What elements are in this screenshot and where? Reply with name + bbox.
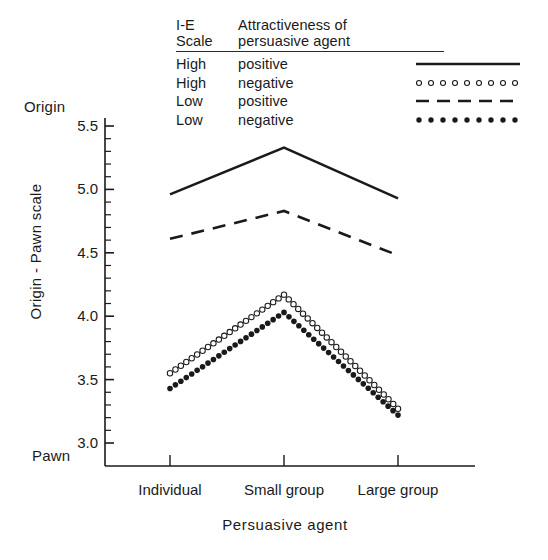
x-axis-ticks: [170, 455, 398, 466]
plot-area: [0, 0, 548, 560]
series-dashed: [170, 211, 398, 255]
figure-root: I-E Attractiveness of Scale persuasive a…: [0, 0, 548, 560]
data-series-layer: [167, 148, 401, 418]
series-filled-circle: [167, 310, 401, 418]
series-solid: [170, 148, 398, 199]
y-axis-ticks: [105, 126, 114, 443]
